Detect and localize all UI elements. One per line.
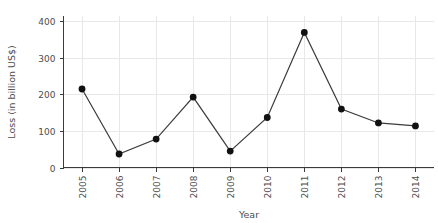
y-tick-label: 0 [50, 164, 56, 174]
x-tick-label: 2010 [263, 175, 273, 198]
x-axis-title: Year [238, 209, 259, 220]
y-tick-label: 300 [38, 54, 55, 64]
chart-background [0, 0, 438, 223]
x-tick-label: 2005 [78, 176, 88, 199]
x-tick-label: 2006 [115, 175, 125, 198]
chart-figure: 0100200300400 20052006200720082009201020… [0, 0, 438, 223]
x-tick-label: 2011 [300, 176, 310, 199]
data-point [264, 114, 271, 121]
x-tick-label: 2014 [411, 175, 421, 198]
line-chart: 0100200300400 20052006200720082009201020… [0, 0, 438, 223]
y-tick-label: 200 [38, 90, 55, 100]
x-tick-label: 2007 [152, 176, 162, 199]
x-tick-label: 2013 [374, 176, 384, 199]
x-tick-label: 2012 [337, 176, 347, 199]
data-point [412, 122, 419, 129]
y-tick-label: 400 [38, 17, 55, 27]
data-point [153, 136, 160, 143]
x-tick-label: 2009 [226, 175, 236, 198]
y-tick-label: 100 [38, 127, 55, 137]
data-point [338, 106, 345, 113]
data-point [227, 148, 234, 155]
data-point [116, 151, 123, 158]
data-point [190, 94, 197, 101]
data-point [375, 120, 382, 127]
x-tick-label: 2008 [189, 175, 199, 198]
y-axis-title: Loss (in billion US$) [6, 45, 17, 138]
data-point [79, 86, 86, 93]
data-point [301, 29, 308, 36]
